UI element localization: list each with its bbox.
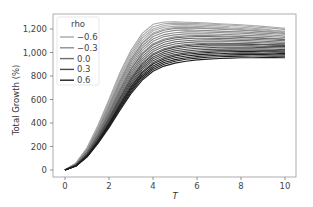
x-tick-label: 10 xyxy=(280,181,291,191)
legend-label: −0.6 xyxy=(77,32,98,42)
y-axis-label: Total Growth (%) xyxy=(11,65,21,137)
y-tick-label: 400 xyxy=(31,118,47,128)
x-axis-label: T xyxy=(172,191,178,201)
y-tick-label: 1,000 xyxy=(23,48,47,58)
legend: rho −0.6−0.30.00.30.6 xyxy=(57,17,99,85)
y-tick-label: 1,200 xyxy=(23,24,47,34)
line-chart: 0246810 02004006008001,0001,200 T Total … xyxy=(0,0,313,207)
y-tick-label: 800 xyxy=(31,71,47,81)
x-tick-label: 2 xyxy=(106,181,111,191)
x-tick-label: 6 xyxy=(194,181,199,191)
legend-label: 0.3 xyxy=(77,64,91,74)
y-tick-label: 0 xyxy=(42,165,47,175)
legend-label: 0.6 xyxy=(77,75,91,85)
x-tick-label: 0 xyxy=(62,181,67,191)
y-tick-label: 600 xyxy=(31,95,47,105)
legend-label: −0.3 xyxy=(77,43,98,53)
y-tick-label: 200 xyxy=(31,142,47,152)
legend-label: 0.0 xyxy=(77,54,91,64)
x-tick-label: 4 xyxy=(150,181,155,191)
legend-title: rho xyxy=(71,19,85,29)
x-tick-label: 8 xyxy=(238,181,243,191)
